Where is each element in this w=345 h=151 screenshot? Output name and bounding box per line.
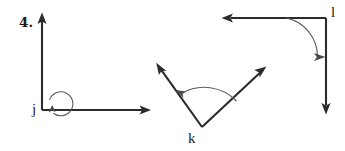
arc-l-interior — [287, 18, 318, 57]
arrowhead-arc-l — [314, 53, 326, 61]
arc-k-interior — [182, 87, 237, 101]
ray-k-upper-right — [202, 72, 261, 127]
arrowhead-arc-j — [49, 105, 56, 113]
arc-j-reflex — [50, 92, 73, 116]
figure-l — [222, 13, 331, 114]
arrowhead-k-upper-left — [156, 63, 166, 75]
diagram-canvas: 4. j k l — [0, 0, 345, 151]
vertex-label-k: k — [188, 131, 196, 146]
figure-k — [156, 63, 266, 127]
vertex-label-j: j — [32, 102, 36, 117]
problem-number-label: 4. — [19, 16, 33, 30]
angles-diagram — [0, 0, 345, 151]
figure-j — [37, 13, 151, 116]
ray-k-upper-left — [162, 70, 202, 127]
vertex-label-l: l — [331, 5, 335, 20]
